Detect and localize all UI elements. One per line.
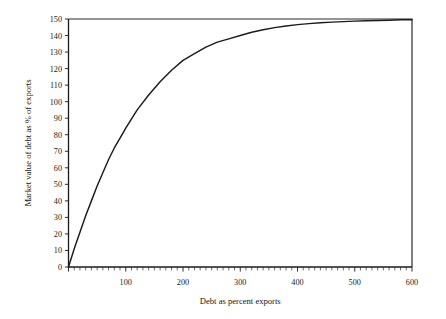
y-tick-label: 140 bbox=[50, 32, 62, 41]
chart-page: 0102030405060708090100110120130140150100… bbox=[0, 0, 446, 319]
y-tick-label: 130 bbox=[50, 48, 62, 57]
plot-frame bbox=[69, 19, 413, 267]
y-tick-label: 70 bbox=[54, 147, 62, 156]
y-tick-label: 50 bbox=[54, 180, 62, 189]
x-tick-label: 200 bbox=[177, 278, 189, 287]
y-tick-label: 150 bbox=[50, 15, 62, 24]
x-axis-title: Debt as percent exports bbox=[200, 296, 282, 306]
y-tick-label: 90 bbox=[54, 114, 62, 123]
y-tick-label: 0 bbox=[58, 263, 62, 272]
x-tick-label: 400 bbox=[291, 278, 303, 287]
y-tick-label: 30 bbox=[54, 213, 62, 222]
y-axis-title: Market value of debt as % of exports bbox=[23, 79, 33, 207]
y-tick-label: 110 bbox=[50, 81, 62, 90]
data-curve bbox=[69, 20, 413, 267]
x-tick-label: 500 bbox=[349, 278, 361, 287]
y-tick-label: 10 bbox=[54, 246, 62, 255]
y-tick-label: 40 bbox=[54, 197, 62, 206]
y-tick-label: 120 bbox=[50, 65, 62, 74]
y-tick-label: 60 bbox=[54, 164, 62, 173]
chart-canvas: 0102030405060708090100110120130140150100… bbox=[0, 0, 446, 319]
y-tick-label: 80 bbox=[54, 131, 62, 140]
y-tick-label: 100 bbox=[50, 98, 62, 107]
x-tick-label: 600 bbox=[406, 278, 418, 287]
x-tick-label: 300 bbox=[234, 278, 246, 287]
x-tick-label: 100 bbox=[120, 278, 132, 287]
y-tick-label: 20 bbox=[54, 230, 62, 239]
